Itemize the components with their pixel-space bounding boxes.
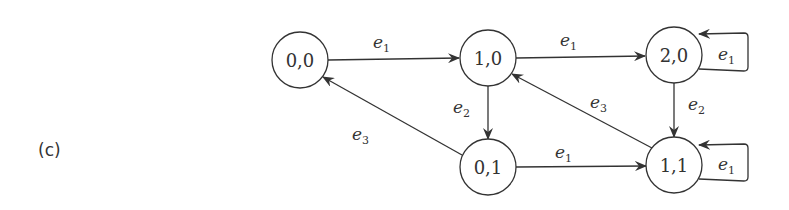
node-1-1: 1,1 <box>646 137 702 193</box>
edge-00-10 <box>328 58 459 60</box>
edge-10-20 <box>516 56 645 58</box>
node-label: 0,1 <box>474 157 503 178</box>
edge-label-20-self: e1 <box>718 44 735 67</box>
edge-label-10-20: e1 <box>560 30 577 53</box>
edge-01-00 <box>323 77 462 155</box>
edge-label-20-11: e2 <box>688 94 705 117</box>
node-1-0: 1,0 <box>460 30 516 86</box>
edge-11-10 <box>512 74 652 148</box>
node-label: 1,1 <box>660 155 689 176</box>
node-2-0: 2,0 <box>646 27 702 83</box>
edge-label-10-01: e2 <box>453 97 470 120</box>
node-0-1: 0,1 <box>460 139 516 195</box>
edge-01-11 <box>516 166 646 167</box>
edge-label-01-11: e1 <box>555 142 572 165</box>
node-label: 2,0 <box>660 45 689 66</box>
node-0-0: 0,0 <box>272 32 328 88</box>
panel-label: (c) <box>38 140 61 160</box>
edge-label-11-10: e3 <box>590 92 607 115</box>
edge-label-00-10: e1 <box>373 32 390 55</box>
node-label: 1,0 <box>474 48 503 69</box>
node-label: 0,0 <box>286 50 315 71</box>
edge-label-11-self: e1 <box>718 154 735 177</box>
edge-label-01-00: e3 <box>352 124 369 147</box>
state-diagram: (c) e1 e1 e1 e2 e2 e3 e3 e1 e1 0,0 1,0 2… <box>0 0 789 210</box>
